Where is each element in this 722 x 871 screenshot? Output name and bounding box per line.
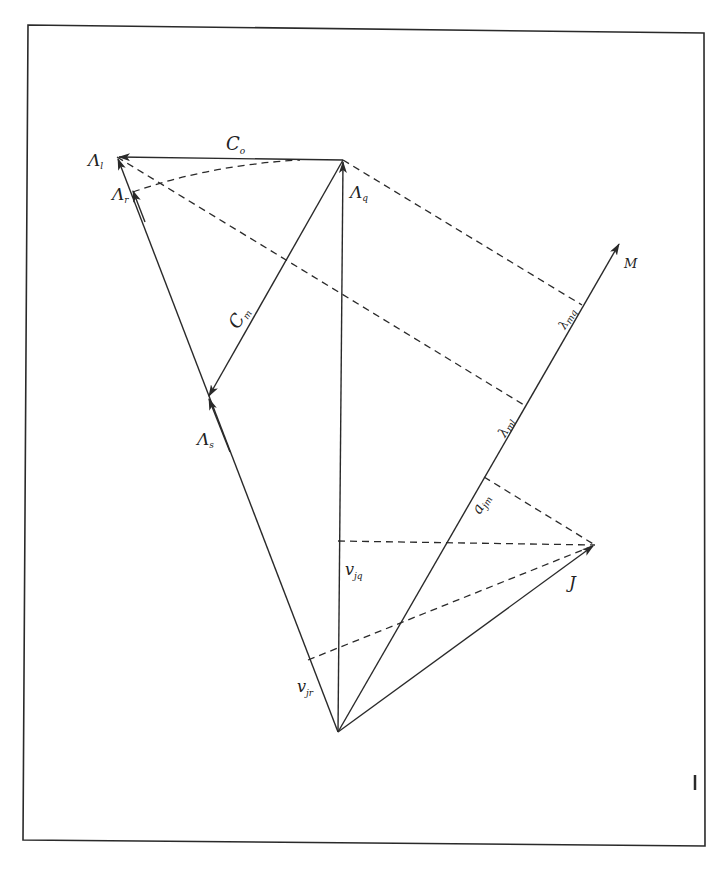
label-lambda-l: Λl	[86, 150, 103, 171]
label-vjq: vjq	[345, 560, 363, 581]
projection-lambda-q	[343, 160, 582, 305]
projection-lambda-l	[117, 157, 524, 405]
vector-diagram: Co Λl Λr Λq Cm Λs M λmq λml ajm J vjq vj…	[0, 0, 722, 871]
frame-border	[23, 25, 705, 846]
label-c0: Co	[226, 133, 246, 156]
label-cm: Cm	[224, 302, 254, 333]
label-lambda-r: Λr	[110, 184, 129, 205]
label-j: J	[566, 572, 577, 592]
label-m: M	[623, 256, 638, 271]
vector-lambda-r-arrow	[133, 191, 145, 222]
label-lambda-s: Λs	[195, 429, 214, 450]
vector-j	[338, 546, 593, 732]
vector-cm	[209, 160, 343, 396]
vector-c0	[119, 157, 343, 160]
label-ajm: ajm	[468, 490, 495, 517]
label-lambda-mq: λmq	[555, 305, 580, 333]
arc-lambda-r	[133, 160, 300, 192]
label-lambda-ml: λml	[494, 415, 518, 441]
projection-ajm	[484, 477, 595, 545]
projection-vjq	[338, 541, 595, 545]
label-lambda-q: Λq	[348, 182, 368, 203]
label-vjr: vjr	[297, 677, 314, 698]
